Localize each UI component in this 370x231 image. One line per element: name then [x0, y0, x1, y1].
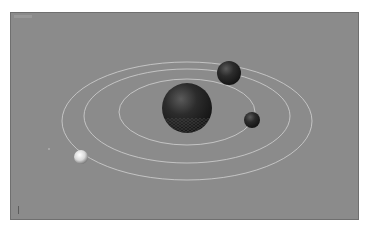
solar-system-scene	[0, 0, 370, 231]
small-point	[48, 148, 50, 150]
planet-right[interactable]	[244, 112, 260, 128]
planet-top-right[interactable]	[217, 61, 241, 85]
planet-left-light[interactable]	[74, 150, 88, 164]
sun-sphere[interactable]	[162, 83, 212, 133]
